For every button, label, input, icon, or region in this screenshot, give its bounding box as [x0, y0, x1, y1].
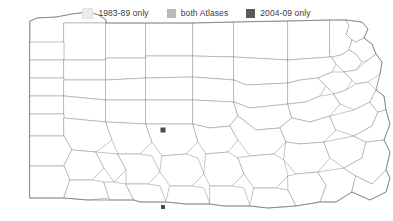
legend-swatch-light-icon [82, 8, 93, 19]
county-fulton-south [210, 186, 250, 206]
county-elk [146, 56, 193, 78]
site-marker-2004-09-2[interactable] [161, 205, 165, 209]
county-indiana [146, 124, 198, 156]
county-cameron [193, 56, 234, 80]
site-marker-2004-09-1[interactable] [161, 128, 166, 133]
county-lycoming [234, 80, 288, 108]
county-clearfield-north [193, 77, 234, 102]
legend-label-both-atlases: both Atlases [181, 9, 229, 18]
county-westmoreland [106, 122, 152, 154]
county-mercer-north [30, 60, 64, 78]
map-figure: 1983-89 only both Atlases 2004-09 only [0, 0, 393, 221]
county-somerset [160, 154, 204, 186]
legend-item-2004-09-only[interactable]: 2004-09 only [246, 9, 310, 18]
county-jefferson [146, 77, 193, 100]
county-potter [193, 22, 234, 57]
county-cumberland-york [284, 142, 330, 174]
county-franklin-fulton [238, 154, 288, 188]
legend-swatch-medium-icon [167, 9, 176, 18]
county-bradford [288, 20, 330, 60]
county-mercer [30, 78, 64, 96]
county-mckean [146, 23, 193, 56]
county-tioga [234, 21, 288, 60]
legend-label-2004-09-only: 2004-09 only [260, 9, 310, 18]
county-bedford [204, 152, 244, 186]
pennsylvania-county-map [0, 0, 393, 221]
county-venango-west [64, 60, 106, 80]
legend-item-1983-89-only[interactable]: 1983-89 only [82, 8, 148, 19]
county-allegheny [64, 118, 112, 152]
county-butler [64, 96, 106, 122]
county-warren [106, 23, 146, 58]
county-forest [106, 58, 146, 80]
legend-swatch-dark-icon [246, 9, 255, 18]
county-crawford [64, 23, 106, 60]
county-greene [64, 180, 110, 200]
county-erie-south [30, 42, 64, 60]
county-bedford-south [166, 186, 210, 204]
county-indiana-north [146, 100, 193, 124]
county-washington-north [30, 136, 72, 166]
map-svg [0, 0, 393, 221]
legend-item-both-atlases[interactable]: both Atlases [167, 9, 229, 18]
county-clearfield [193, 100, 238, 128]
county-boundaries [30, 12, 390, 208]
county-clarion [106, 78, 146, 100]
county-lycoming-north [234, 57, 288, 85]
county-lawrence [30, 96, 64, 114]
county-armstrong [106, 100, 146, 124]
legend-label-1983-89-only: 1983-89 only [98, 9, 148, 18]
county-beaver [30, 114, 64, 136]
county-greene-west [30, 166, 70, 198]
